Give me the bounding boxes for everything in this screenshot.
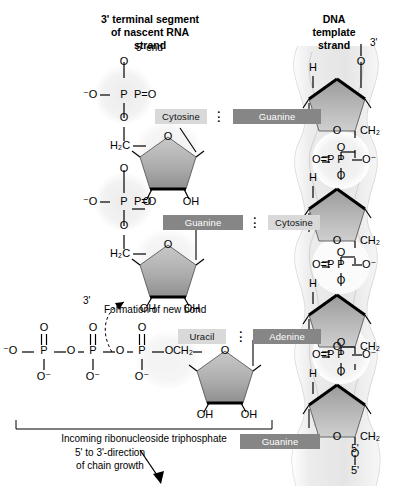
hydrogen-bond-dots-1: ··· [217,110,221,124]
base-label-dna-2[interactable]: Cytosine [268,215,320,230]
chain-growth-arrowhead [153,471,164,484]
base-label-dna-1[interactable]: Guanine [233,109,321,124]
atom-o-double-p: O=P [312,349,334,360]
atom-ring-oxygen: O [333,125,342,136]
atom-oxygen: O [337,337,346,348]
atom-phosphorus: P [89,345,96,356]
atom-ch2: CH₂ [360,431,380,442]
dna-title-line-2: template [312,27,355,38]
atom-hydrogen: H [309,278,317,289]
atom-oxygen: O [357,56,366,67]
incoming-ntp-annotation: Incoming ribonucleoside triphosphate [61,434,227,444]
base-label-rna-3[interactable]: Uracil [178,329,226,344]
atom-oxygen: O [120,220,129,231]
atom-h2c: H₂C [110,140,130,151]
atom-ring-oxygen: O [164,131,173,142]
atom-oxygen: O [40,322,49,333]
atom-oxygen: O [337,142,346,153]
atom-bridging-oxygen: O [67,345,76,356]
atom-ring-oxygen: O [164,239,173,250]
atom-oxygen: O [337,366,346,377]
atom-phosphorus: P [120,196,127,207]
atom-ring-oxygen: O [333,431,342,442]
dna-title-line-1: DNA [323,14,346,25]
rna-3-prime-oh-label: 3' [83,296,90,306]
atom-p-double-o: P=O [134,196,156,207]
atom-bridging-oxygen: O [116,345,125,356]
hydrogen-bond-dots-2: ··· [253,216,257,230]
direction-annotation-line-1: 5' to 3'-direction [75,448,145,458]
base-label-dna-3[interactable]: Adenine [253,329,321,344]
base-label-rna-1[interactable]: Cytosine [155,109,207,124]
atom-phosphorus: P [337,259,344,270]
atom-phosphorus: P [337,154,344,165]
atom-phosphorus: P [138,345,145,356]
atom-oxygen: O [337,247,346,258]
atom-oxygen: O [89,322,98,333]
atom-oxygen: O [138,322,147,333]
atom-o-minus: ⁻O [83,89,97,100]
atom-oxygen: O [337,170,346,181]
atom-o-double-p: O=P [312,154,334,165]
incoming-bracket [16,420,272,429]
dna-3-prime-end-label: 3' [370,38,377,48]
base-label-rna-2[interactable]: Guanine [163,215,243,230]
atom-oxygen: O [120,163,129,174]
atom-ch2: CH₂ [173,345,193,356]
atom-phosphorus: P [120,89,127,100]
atom-o-minus: O⁻ [135,371,149,382]
atom-ch2: CH₂ [360,125,380,136]
new-bond-annotation: Formation of new bond [104,305,206,315]
atom-ring-oxygen: O [333,235,342,246]
atom-hydrogen: H [309,368,317,379]
atom-hydrogen: H [309,62,317,73]
atom-o-minus: ⁻O [83,196,97,207]
direction-annotation-line-2: of chain growth [76,461,144,471]
atom-ring-oxygen: O [221,345,230,356]
hydrogen-bond-dots-3: ··· [239,330,243,344]
dna-title-line-3: strand [318,40,350,51]
rna-title-line-1: 3' terminal segment [101,14,199,25]
atom-hydroxyl: OH [197,409,214,420]
atom-o-minus: O⁻ [37,371,51,382]
atom-oxygen: O [120,56,129,67]
figure-canvas: 3' terminal segment of nascent RNA stran… [0,0,420,491]
atom-h2c: H₂C [110,248,130,259]
atom-o-minus: O⁻ [362,154,376,165]
dna-5-prime-terminus-label: 5' [351,465,359,476]
atom-phosphorus: P [40,345,47,356]
atom-o-minus: ⁻O [3,345,17,356]
atom-hydroxyl: OH [183,196,200,207]
atom-phosphorus: P [337,349,344,360]
base-label-dna-unpaired[interactable]: Guanine [240,434,320,449]
atom-o-minus: O⁻ [362,259,376,270]
atom-o-double-p: O=P [312,259,334,270]
atom-o-minus: O⁻ [86,371,100,382]
atom-hydrogen: H [309,172,317,183]
atom-oxygen: O [337,275,346,286]
atom-oxygen: O [120,112,129,123]
atom-oxygen: O [351,448,360,459]
atom-ch2: CH₂ [360,235,380,246]
atom-p-double-o: P=O [134,89,156,100]
rna-5-prime-end-label: 5' end [136,43,163,53]
atom-o-minus: O⁻ [362,349,376,360]
rna-title-line-2: of nascent RNA [111,27,189,38]
atom-hydroxyl: OH [241,409,258,420]
